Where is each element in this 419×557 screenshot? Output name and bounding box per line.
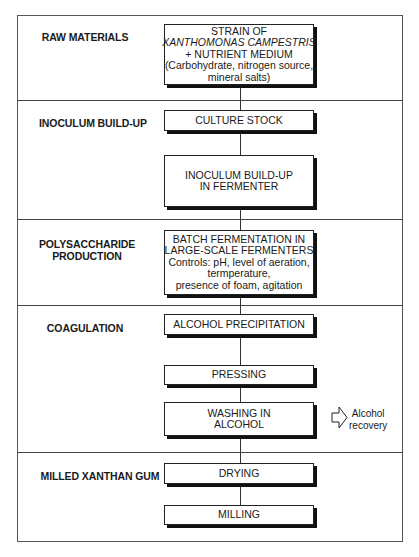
step-line: ALCOHOL: [214, 419, 264, 431]
step-box-culture-stock: CULTURE STOCK: [164, 110, 314, 131]
connector-line: [240, 436, 241, 463]
stage-label-milled-xanthan-gum: MILLED XANTHAN GUM: [38, 470, 162, 482]
stage-label-line: INOCULUM BUILD-UP: [39, 117, 147, 129]
outline-right-arrow-icon: [331, 406, 348, 429]
stage-label-line: RAW MATERIALS: [42, 31, 129, 43]
step-line: ALCOHOL PRECIPITATION: [173, 319, 305, 331]
step-line: presence of foam, agitation: [176, 280, 303, 292]
connector-line: [240, 484, 241, 505]
stage-label-line: POLYSACCHARIDE: [34, 238, 140, 250]
step-line: mineral salts): [208, 72, 270, 84]
step-box-batch-fermentation: BATCH FERMENTATION IN LARGE-SCALE FERMEN…: [164, 230, 314, 295]
section-divider: [17, 305, 403, 306]
step-line: CULTURE STOCK: [195, 115, 283, 127]
connector-line: [240, 207, 241, 230]
alcohol-recovery-note: Alcohol recovery: [349, 408, 387, 431]
section-divider: [17, 219, 403, 220]
stage-label-inoculum-build-up: INOCULUM BUILD-UP: [36, 117, 150, 129]
stage-label-line: MILLED XANTHAN GUM: [41, 470, 160, 482]
step-line: PRESSING: [212, 369, 266, 381]
step-line: IN FERMENTER: [200, 181, 279, 193]
stage-label-line: COAGULATION: [47, 322, 123, 334]
section-divider: [17, 452, 403, 453]
stage-label-polysaccharide-production: POLYSACCHARIDE PRODUCTION: [34, 238, 140, 262]
step-box-alcohol-precipitation: ALCOHOL PRECIPITATION: [164, 314, 314, 335]
section-divider: [17, 100, 403, 101]
step-box-pressing: PRESSING: [164, 365, 314, 385]
step-box-strain-and-medium: STRAIN OF XANTHOMONAS CAMPESTRIS + NUTRI…: [164, 24, 314, 85]
connector-line: [240, 295, 241, 314]
stage-label-coagulation: COAGULATION: [44, 322, 126, 334]
step-box-milling: MILLING: [164, 505, 314, 525]
step-box-inoculum-in-fermenter: INOCULUM BUILD-UP IN FERMENTER: [164, 155, 314, 207]
stage-label-raw-materials: RAW MATERIALS: [38, 31, 132, 43]
step-line: DRYING: [219, 468, 260, 480]
step-box-drying: DRYING: [164, 463, 314, 484]
connector-line: [240, 131, 241, 155]
connector-line: [240, 385, 241, 402]
step-box-washing-in-alcohol: WASHING IN ALCOHOL: [164, 402, 314, 436]
connector-line: [240, 85, 241, 110]
connector-line: [240, 335, 241, 365]
stage-label-line: PRODUCTION: [34, 250, 140, 262]
side-note-line: Alcohol: [349, 408, 387, 420]
side-note-line: recovery: [349, 420, 387, 432]
step-line: MILLING: [218, 509, 260, 521]
